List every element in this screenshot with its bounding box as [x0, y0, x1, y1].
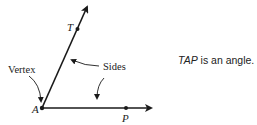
vertex-label: Vertex: [8, 64, 36, 75]
point-p: [124, 106, 128, 110]
caption-text: is an angle.: [198, 54, 255, 66]
sides-label: Sides: [103, 61, 126, 72]
point-a: [40, 106, 44, 110]
label-p: P: [121, 112, 129, 124]
label-t: T: [67, 21, 74, 33]
sides-callout-arrow-upper: [72, 60, 99, 66]
ray-at: [42, 7, 87, 108]
vertex-callout-arrow: [29, 76, 41, 101]
point-t: [76, 27, 80, 31]
sides-callout-arrow-lower: [97, 78, 104, 98]
label-a: A: [31, 103, 39, 115]
caption: TAP is an angle.: [178, 54, 254, 66]
angle-name: TAP: [178, 54, 198, 66]
